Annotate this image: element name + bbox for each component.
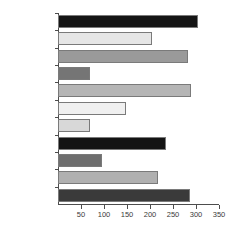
x-tick-label: 200 [144,210,157,219]
y-tick-mark [55,48,58,49]
x-tick-label: 150 [121,210,134,219]
bar-row: History [58,152,219,169]
bar [58,102,126,115]
x-tick-mark [219,205,220,209]
x-tick-mark [196,205,197,209]
bar-row: Des Tec [58,100,219,117]
x-tick-label: 100 [98,210,111,219]
bar [58,154,102,167]
y-tick-mark [55,117,58,118]
bar [58,32,152,45]
y-tick-mark [55,187,58,188]
bar [58,50,188,63]
bar-row: Music [58,117,219,134]
bar-row: Rel Ed [58,65,219,82]
y-tick-mark [55,82,58,83]
bar-row: Science [58,13,219,30]
bar-row: Maths [58,30,219,47]
bar [58,84,191,97]
x-tick-label: 300 [190,210,203,219]
bar-row: Art [58,135,219,152]
x-tick-mark [104,205,105,209]
y-tick-mark [55,100,58,101]
y-tick-mark [55,169,58,170]
bar [58,15,198,28]
x-tick-mark [173,205,174,209]
y-tick-mark [55,135,58,136]
bar-row: Geog [58,169,219,186]
x-tick-label: 50 [77,210,85,219]
y-tick-mark [55,152,58,153]
plot-area: ScienceMathsEnv EdRel EdPhys EdDes TecMu… [58,13,219,204]
x-tick-label: 350 [213,210,226,219]
y-tick-mark [55,13,58,14]
bar-row: English [58,187,219,204]
y-tick-mark [55,65,58,66]
x-tick-mark [81,205,82,209]
x-tick-mark [150,205,151,209]
bar-row: Phys Ed [58,82,219,99]
bar [58,119,90,132]
y-tick-mark [55,30,58,31]
bar [58,171,158,184]
x-tick-mark [127,205,128,209]
bar [58,67,90,80]
x-axis-ticks: 50100150200250300350 [58,205,219,225]
bar-chart: ScienceMathsEnv EdRel EdPhys EdDes TecMu… [0,0,227,235]
bar [58,137,166,150]
x-tick-label: 250 [167,210,180,219]
bar-row: Env Ed [58,48,219,65]
bar [58,189,190,202]
